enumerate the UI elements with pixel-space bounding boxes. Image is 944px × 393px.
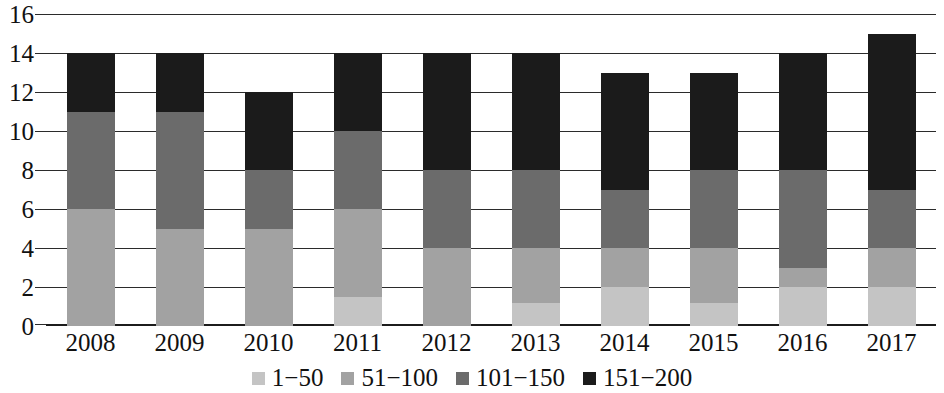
legend-label: 51−100 (361, 365, 438, 390)
legend-swatch-icon (341, 372, 354, 385)
bar-segment (690, 73, 738, 171)
plot-area (46, 14, 936, 326)
bar-group (423, 14, 471, 326)
y-tick-label-4: 4 (22, 236, 35, 261)
bar-segment (779, 170, 827, 268)
bar-segment (690, 170, 738, 248)
bar-segment (601, 73, 649, 190)
legend: 1−5051−100101−150151−200 (0, 361, 944, 393)
bar-segment (868, 190, 916, 249)
legend-item[interactable]: 1−50 (252, 365, 324, 390)
x-tick-label-2008: 2008 (46, 328, 135, 358)
bar-group (779, 14, 827, 326)
bar-stack (245, 14, 293, 326)
bar-stack (601, 14, 649, 326)
bar-group (156, 14, 204, 326)
x-tick-label-2013: 2013 (491, 328, 580, 358)
bar-segment (67, 53, 115, 112)
legend-label: 1−50 (272, 365, 324, 390)
bar-segment (601, 248, 649, 287)
bar-segment (67, 209, 115, 326)
y-tick-mark-14 (35, 53, 46, 54)
bar-segment (156, 53, 204, 112)
y-tick-mark-6 (35, 209, 46, 210)
bar-group (868, 14, 916, 326)
bar-group (334, 14, 382, 326)
bar-segment (334, 297, 382, 326)
y-tick-mark-0 (35, 324, 46, 325)
bar-stack (67, 14, 115, 326)
legend-item[interactable]: 101−150 (456, 365, 565, 390)
y-tick-mark-2 (35, 287, 46, 288)
bar-segment (690, 248, 738, 303)
bar-segment (423, 53, 471, 170)
bar-segment (67, 112, 115, 210)
bar-group (512, 14, 560, 326)
x-tick-label-2014: 2014 (580, 328, 669, 358)
bar-segment (868, 34, 916, 190)
bar-group (601, 14, 649, 326)
y-tick-label-8: 8 (22, 158, 35, 183)
bar-segment (690, 303, 738, 326)
bars-layer (46, 14, 936, 326)
y-tick-mark-10 (35, 131, 46, 132)
bar-segment (512, 248, 560, 303)
legend-label: 151−200 (603, 365, 692, 390)
bar-segment (601, 287, 649, 326)
bar-group (245, 14, 293, 326)
x-tick-label-2011: 2011 (313, 328, 402, 358)
bar-segment (156, 229, 204, 327)
legend-swatch-icon (252, 372, 265, 385)
x-tick-label-2016: 2016 (758, 328, 847, 358)
y-tick-mark-12 (35, 92, 46, 93)
y-tick-label-16: 16 (9, 2, 34, 27)
y-tick-label-2: 2 (22, 275, 35, 300)
bar-segment (512, 303, 560, 326)
bar-segment (423, 248, 471, 326)
bar-segment (423, 170, 471, 248)
bar-stack (512, 14, 560, 326)
bar-segment (334, 53, 382, 131)
x-tick-label-2010: 2010 (224, 328, 313, 358)
bar-stack (156, 14, 204, 326)
x-tick-label-2017: 2017 (847, 328, 936, 358)
bar-segment (334, 209, 382, 297)
bar-segment (868, 248, 916, 287)
bar-segment (868, 287, 916, 326)
bar-segment (779, 53, 827, 170)
bar-stack (423, 14, 471, 326)
bar-segment (156, 112, 204, 229)
x-tick-label-2009: 2009 (135, 328, 224, 358)
bar-segment (245, 170, 293, 229)
y-tick-mark-4 (35, 248, 46, 249)
bar-segment (512, 53, 560, 170)
legend-label: 101−150 (476, 365, 565, 390)
bar-segment (245, 92, 293, 170)
bar-stack (779, 14, 827, 326)
bar-segment (512, 170, 560, 248)
bar-stack (868, 14, 916, 326)
bar-group (690, 14, 738, 326)
x-tick-label-2012: 2012 (402, 328, 491, 358)
bar-segment (245, 229, 293, 327)
y-tick-label-0: 0 (22, 314, 35, 339)
legend-item[interactable]: 151−200 (583, 365, 692, 390)
y-tick-mark-16 (35, 14, 46, 15)
bar-segment (779, 268, 827, 288)
bar-group (67, 14, 115, 326)
legend-swatch-icon (583, 372, 596, 385)
y-tick-label-10: 10 (9, 119, 34, 144)
x-tick-label-2015: 2015 (669, 328, 758, 358)
bar-segment (601, 190, 649, 249)
x-axis: 2008200920102011201220132014201520162017 (46, 328, 936, 360)
bar-segment (334, 131, 382, 209)
y-tick-label-14: 14 (9, 41, 34, 66)
bar-stack (334, 14, 382, 326)
stacked-bar-chart: 0246810121416 20082009201020112012201320… (0, 0, 944, 393)
bar-segment (779, 287, 827, 326)
y-tick-mark-8 (35, 170, 46, 171)
y-tick-label-12: 12 (9, 80, 34, 105)
y-tick-label-6: 6 (22, 197, 35, 222)
legend-item[interactable]: 51−100 (341, 365, 438, 390)
legend-swatch-icon (456, 372, 469, 385)
